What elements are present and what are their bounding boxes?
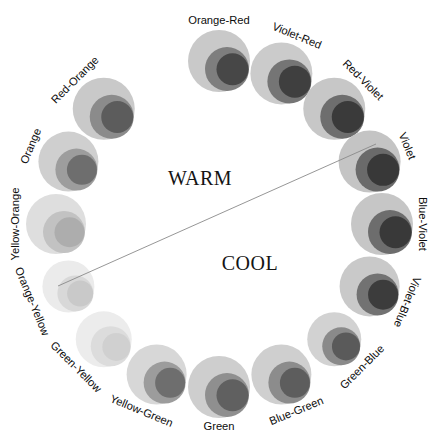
swatch-shade-circle — [380, 216, 412, 248]
color-swatch — [307, 312, 361, 366]
swatch-shade-circle — [67, 281, 93, 307]
color-swatch — [303, 78, 365, 140]
warm-cool-divider — [58, 144, 376, 286]
segment-label: Yellow-Orange — [9, 188, 21, 261]
color-swatch — [42, 260, 94, 312]
swatch-ring — [26, 30, 413, 418]
swatch-shade-circle — [332, 332, 360, 360]
segment-label: Blue-Violet — [417, 197, 429, 252]
swatch-shade-circle — [67, 155, 97, 185]
color-swatch — [351, 193, 413, 255]
color-swatch — [340, 256, 400, 316]
temperature-label: COOL — [222, 252, 278, 274]
swatch-shade-circle — [55, 217, 85, 247]
color-swatch — [38, 132, 98, 192]
color-swatch — [188, 356, 250, 418]
swatch-shade-circle — [332, 101, 364, 133]
color-wheel-figure: Orange-RedViolet-RedRed-VioletVioletBlue… — [0, 0, 438, 447]
swatch-shade-circle — [368, 280, 398, 310]
swatch-shade-circle — [279, 66, 311, 98]
swatch-shade-circle — [101, 101, 133, 133]
segment-label: Green — [203, 420, 234, 432]
temperature-label: WARM — [168, 167, 232, 189]
swatch-shade-circle — [280, 368, 310, 398]
color-swatch — [251, 345, 311, 405]
color-swatch — [73, 78, 135, 140]
segment-label: Orange-Red — [188, 14, 250, 26]
swatch-shade-circle — [367, 154, 399, 186]
color-swatch — [188, 30, 250, 92]
center-label-group: WARMCOOL — [168, 167, 278, 274]
swatch-shade-circle — [217, 379, 249, 411]
swatch-shade-circle — [155, 368, 185, 398]
color-swatch — [76, 311, 132, 367]
color-swatch — [26, 194, 86, 254]
color-swatch — [250, 42, 312, 104]
swatch-shade-circle — [102, 333, 130, 361]
color-swatch — [127, 345, 187, 405]
swatch-shade-circle — [217, 53, 249, 85]
color-swatch — [339, 131, 401, 193]
